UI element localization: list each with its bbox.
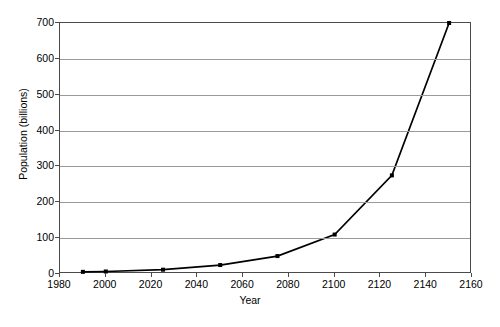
- gridline-y-500: [60, 95, 470, 96]
- y-tick-mark-100: [55, 237, 59, 238]
- y-tick-mark-400: [55, 130, 59, 131]
- y-tick-label-300: 300: [4, 160, 54, 170]
- x-tick-mark-1980: [59, 273, 60, 277]
- x-tick-mark-2040: [196, 273, 197, 277]
- y-tick-label-200: 200: [4, 196, 54, 206]
- x-tick-label-2160: 2160: [459, 279, 482, 290]
- y-axis-title: Population (billions): [17, 64, 29, 204]
- y-tick-label-0: 0: [4, 268, 54, 278]
- y-tick-label-600: 600: [4, 53, 54, 63]
- x-tick-mark-2120: [379, 273, 380, 277]
- x-tick-label-2140: 2140: [414, 279, 437, 290]
- x-tick-label-2100: 2100: [322, 279, 345, 290]
- x-tick-mark-2100: [334, 273, 335, 277]
- y-tick-mark-700: [55, 22, 59, 23]
- x-tick-label-2080: 2080: [276, 279, 299, 290]
- population-line-series: [83, 23, 449, 272]
- x-tick-label-2020: 2020: [139, 279, 162, 290]
- x-tick-label-2060: 2060: [230, 279, 253, 290]
- gridline-y-200: [60, 202, 470, 203]
- x-tick-mark-2140: [425, 273, 426, 277]
- y-tick-label-500: 500: [4, 89, 54, 99]
- data-point-2075: [275, 254, 279, 258]
- gridline-y-100: [60, 238, 470, 239]
- gridline-y-600: [60, 59, 470, 60]
- line-chart-svg: [60, 23, 472, 274]
- y-tick-mark-500: [55, 94, 59, 95]
- x-axis-title: Year: [0, 294, 500, 306]
- gridline-y-400: [60, 131, 470, 132]
- data-point-2125: [390, 173, 394, 177]
- data-point-1990: [81, 270, 85, 274]
- y-tick-label-700: 700: [4, 17, 54, 27]
- chart-figure: 0100200300400500600700 Population (billi…: [0, 0, 500, 327]
- data-point-2100: [333, 233, 337, 237]
- y-tick-label-100: 100: [4, 232, 54, 242]
- x-tick-label-2120: 2120: [368, 279, 391, 290]
- gridline-y-300: [60, 166, 470, 167]
- y-tick-label-400: 400: [4, 125, 54, 135]
- x-tick-mark-2020: [151, 273, 152, 277]
- x-tick-mark-2060: [242, 273, 243, 277]
- x-tick-mark-2000: [105, 273, 106, 277]
- x-tick-mark-2160: [471, 273, 472, 277]
- data-point-2050: [218, 263, 222, 267]
- plot-area: [59, 22, 471, 273]
- x-tick-label-1980: 1980: [47, 279, 70, 290]
- data-point-2025: [161, 268, 165, 272]
- x-tick-label-2040: 2040: [185, 279, 208, 290]
- data-point-2150: [447, 21, 451, 25]
- y-tick-mark-200: [55, 201, 59, 202]
- y-tick-mark-600: [55, 58, 59, 59]
- y-tick-mark-300: [55, 165, 59, 166]
- x-tick-label-2000: 2000: [93, 279, 116, 290]
- x-tick-mark-2080: [288, 273, 289, 277]
